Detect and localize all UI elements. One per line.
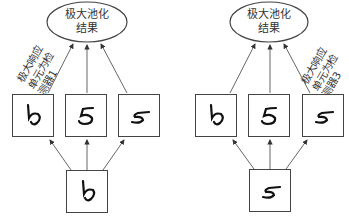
detector-2-box-left <box>65 94 107 137</box>
input-box-left <box>66 170 108 213</box>
detector-1-box-left <box>12 94 54 137</box>
digit-5-tilted-icon <box>124 101 154 131</box>
detector-2-box-right <box>248 94 290 137</box>
digit-5-tilted-icon <box>308 101 338 131</box>
digit-rotated-5-icon <box>201 101 231 131</box>
arrow-d1-to-pool-right <box>230 44 255 93</box>
arrow-d3-to-pool-left <box>101 44 127 93</box>
pool-node-label-line1: 极大池化 <box>57 8 117 22</box>
pool-node-label-line2: 结果 <box>239 22 299 36</box>
pool-node-label-line1: 极大池化 <box>239 8 299 22</box>
detector-1-box-right <box>195 94 237 137</box>
digit-5-icon <box>254 101 284 131</box>
arrow-input-to-d1-right <box>233 140 254 169</box>
arrow-input-to-d3-right <box>286 140 307 169</box>
digit-5-tilted-icon <box>255 176 285 206</box>
pool-node-label-left: 极大池化 结果 <box>57 8 117 36</box>
detector-3-box-left <box>118 94 160 137</box>
detector-3-box-right <box>302 94 344 137</box>
pool-node-label-line2: 结果 <box>57 22 117 36</box>
arrow-input-to-d1-left <box>50 140 71 170</box>
pool-node-label-right: 极大池化 结果 <box>239 8 299 36</box>
arrow-input-to-d3-left <box>103 140 124 170</box>
digit-rotated-5-icon <box>72 177 102 207</box>
input-box-right <box>249 169 291 212</box>
digit-rotated-5-icon <box>18 101 48 131</box>
digit-5-icon <box>71 101 101 131</box>
